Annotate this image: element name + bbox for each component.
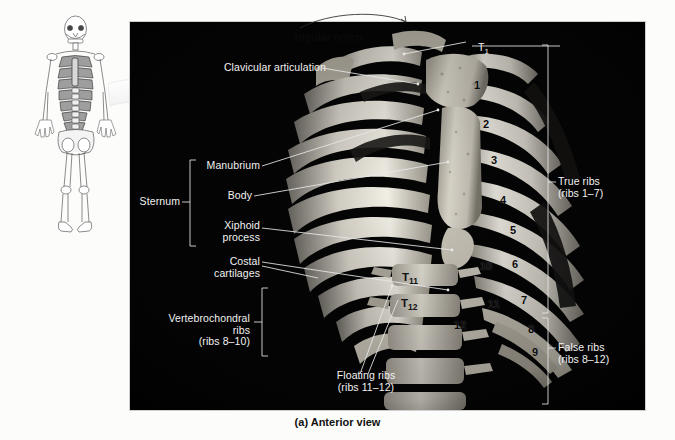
rib-number-1: 1 <box>474 79 480 91</box>
vertebra-label-t11: T11 <box>402 271 418 286</box>
vertebra-label-t12: T12 <box>401 297 418 312</box>
rib-number-5: 5 <box>510 224 516 236</box>
label-manubrium: Manubrium <box>186 160 260 172</box>
label-xiphoid-process: Xiphoid process <box>186 220 260 243</box>
label-jugular-notch: Jugular notch <box>292 32 363 44</box>
figure-root: 1 2 3 4 5 6 7 8 9 10 11 12 T11 T12 <box>0 0 675 440</box>
label-false-ribs: False ribs (ribs 8–12) <box>558 342 668 365</box>
rib-number-10: 10 <box>480 260 492 272</box>
label-body: Body <box>186 190 252 202</box>
rib-number-7: 7 <box>521 294 527 306</box>
label-t1-vertebra: T1 <box>466 30 489 69</box>
rib-number-6: 6 <box>512 258 518 270</box>
rib-number-3: 3 <box>491 154 497 166</box>
label-clavicular-articulation: Clavicular articulation <box>196 62 326 74</box>
label-sternum: Sternum <box>110 196 180 208</box>
rib-number-9: 9 <box>532 346 538 358</box>
rib-number-11: 11 <box>488 298 500 310</box>
rib-number-8: 8 <box>528 323 534 335</box>
label-floating-ribs: Floating ribs (ribs 11–12) <box>296 370 436 393</box>
rib-number-4: 4 <box>500 194 506 206</box>
label-true-ribs: True ribs (ribs 1–7) <box>558 176 668 199</box>
rib-number-12: 12 <box>454 319 466 331</box>
label-costal-cartilages: Costal cartilages <box>184 256 260 279</box>
figure-caption: (a) Anterior view <box>0 416 675 428</box>
label-t1-subscript: 1 <box>484 47 489 56</box>
label-vertebrochondral-ribs: Vertebrochondral ribs (ribs 8–10) <box>150 313 250 348</box>
rib-number-2: 2 <box>483 118 489 130</box>
